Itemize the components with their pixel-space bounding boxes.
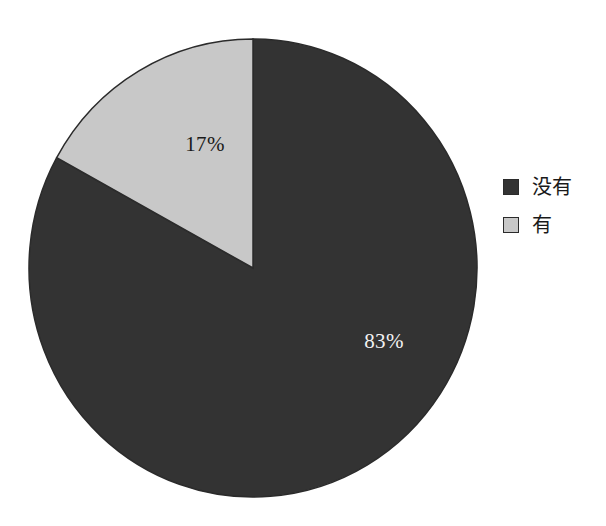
pie-chart-figure: 83% 17% 没有 有 [0, 0, 606, 526]
legend-swatch-没有 [503, 179, 519, 195]
legend-label-没有: 没有 [532, 177, 572, 197]
legend-swatch-有 [503, 217, 519, 233]
legend-item-没有[interactable]: 没有 [503, 175, 603, 199]
legend-item-有[interactable]: 有 [503, 213, 603, 237]
chart-legend: 没有 有 [503, 175, 603, 251]
pie-slice-value-有: 17% [185, 132, 224, 156]
legend-label-有: 有 [532, 215, 552, 235]
pie-chart-canvas: 83% 17% [0, 0, 606, 526]
pie-slice-value-没有: 83% [364, 329, 403, 353]
